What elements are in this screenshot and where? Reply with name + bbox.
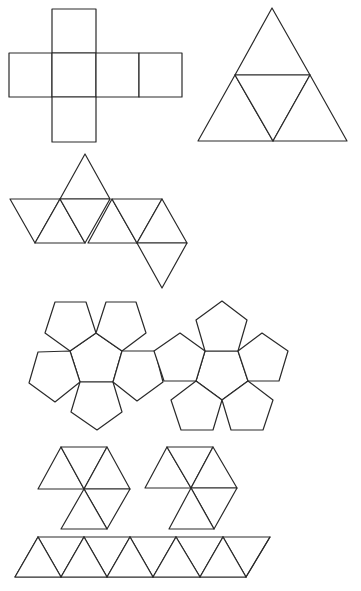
- square-face: [52, 9, 96, 53]
- icosahedron-strip: [15, 537, 270, 577]
- dodecahedron-net-right: [154, 301, 288, 430]
- square-face: [9, 53, 52, 97]
- icosahedron-cap-left: [38, 447, 130, 529]
- square-face: [52, 97, 96, 142]
- tetrahedron-net: [198, 8, 347, 141]
- pentagon-face: [113, 351, 163, 401]
- triangle-face: [60, 154, 110, 199]
- polyhedron-nets-diagram: [0, 0, 361, 591]
- square-face: [96, 53, 139, 97]
- octahedron-net: [10, 154, 187, 288]
- dodecahedron-net-left: [29, 302, 163, 430]
- triangle-face: [137, 243, 187, 288]
- pentagon-face: [238, 333, 288, 381]
- pentagon-face: [154, 333, 205, 381]
- pentagon-face: [29, 351, 80, 402]
- triangle-face: [235, 8, 310, 75]
- square-face: [139, 53, 182, 97]
- icosahedron-cap-right: [145, 447, 237, 529]
- cube-net: [9, 9, 182, 142]
- pentagon-face: [196, 301, 247, 351]
- pentagon-face: [71, 382, 122, 430]
- square-face: [52, 53, 96, 97]
